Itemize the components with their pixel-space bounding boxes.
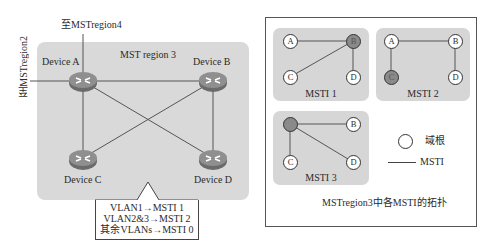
msti-3-node-a-root (283, 117, 298, 132)
msti-3-node-b: B (346, 117, 361, 132)
legend-root-label: 域根 (425, 136, 445, 146)
legend-root-icon (398, 134, 413, 149)
msti-3-node-c: C (283, 155, 298, 170)
legend-line-icon (388, 162, 416, 163)
msti-3-label: MSTI 3 (273, 172, 369, 183)
legend-line-label: MSTI (420, 157, 444, 167)
panel-caption: MSTregion3中各MSTI的拓扑 (322, 198, 447, 208)
msti-3-node-d: D (346, 155, 361, 170)
